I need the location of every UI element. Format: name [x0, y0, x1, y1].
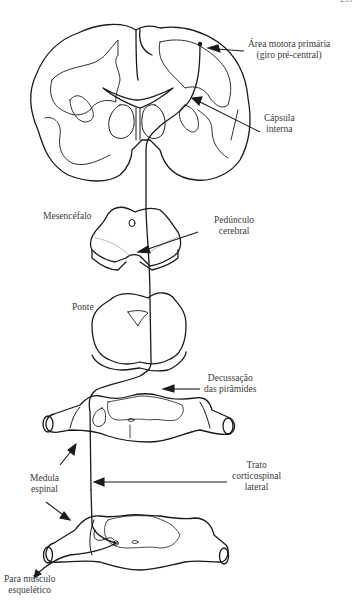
spinal-cord-lower — [46, 515, 228, 570]
label-trato-line1: Trato — [232, 460, 281, 471]
label-pedunculo-line1: Pedúnculo — [214, 215, 254, 226]
spinal-cord-upper — [46, 394, 235, 442]
label-decussacao-line2: das pirâmides — [204, 384, 257, 395]
label-area-motora: Área motora primária (giro pré-central) — [248, 39, 330, 61]
pons — [92, 293, 186, 364]
label-medula-espinal: Medula espinal — [30, 473, 59, 495]
diagram-canvas — [0, 0, 356, 616]
label-pedunculo-line2: cerebral — [214, 226, 254, 237]
label-para-musculo: Para músculo esquelético — [4, 574, 55, 596]
label-mesencefalo-text: Mesencéfalo — [43, 211, 92, 222]
label-area-motora-line1: Área motora primária — [248, 39, 330, 50]
label-ponte: Ponte — [72, 302, 94, 313]
label-ponte-text: Ponte — [72, 302, 94, 313]
label-pedunculo-cerebral: Pedúnculo cerebral — [214, 215, 254, 237]
label-capsula-interna: Cápsula interna — [264, 113, 295, 135]
label-medula-line1: Medula — [30, 473, 59, 484]
midbrain — [90, 207, 180, 266]
label-decussacao-line1: Decussação — [204, 373, 257, 384]
label-medula-line2: espinal — [30, 484, 59, 495]
label-mesencefalo: Mesencéfalo — [43, 211, 92, 222]
label-capsula-line1: Cápsula — [264, 113, 295, 124]
label-area-motora-line2: (giro pré-central) — [248, 50, 330, 61]
label-para-line2: esquelético — [4, 585, 55, 596]
label-trato-line2: corticospinal — [232, 471, 281, 482]
label-trato-corticospinal: Trato corticospinal lateral — [232, 460, 281, 493]
label-trato-line3: lateral — [232, 482, 281, 493]
label-para-line1: Para músculo — [4, 574, 55, 585]
label-capsula-line2: interna — [264, 124, 295, 135]
label-decussacao: Decussação das pirâmides — [204, 373, 257, 395]
